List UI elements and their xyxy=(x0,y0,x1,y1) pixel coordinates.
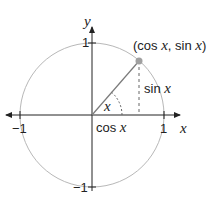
unit-circle-diagram: y x −1 1 1 −1 (cos x, sin x) sin x cos x… xyxy=(0,0,220,201)
tick-label-x-neg: −1 xyxy=(12,121,27,136)
radius-line xyxy=(92,61,139,115)
y-axis-label: y xyxy=(82,13,91,29)
cos-label: cos x xyxy=(96,119,127,135)
sin-label: sin x xyxy=(144,80,171,96)
x-axis-label: x xyxy=(179,120,187,136)
tick-label-y-neg: −1 xyxy=(73,180,88,195)
tick-label-x-pos: 1 xyxy=(160,121,167,136)
angle-arc xyxy=(112,92,122,115)
angle-label: x xyxy=(103,98,111,114)
point-label: (cos x, sin x) xyxy=(133,37,206,53)
point-on-circle xyxy=(136,58,143,65)
tick-label-y-pos: 1 xyxy=(82,35,89,50)
